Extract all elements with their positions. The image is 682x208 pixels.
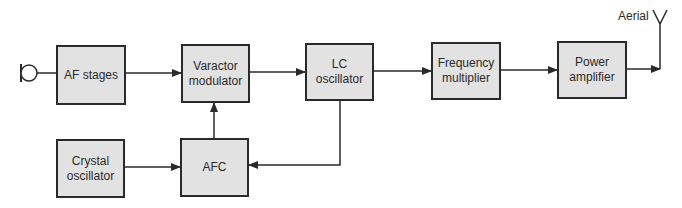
- fm-transmitter-block-diagram: Aerial AF stages Varactor modulator LC o…: [0, 0, 682, 208]
- block-varactor-modulator: Varactor modulator: [181, 44, 250, 103]
- block-lc-oscillator-label: LC oscillator: [316, 57, 363, 87]
- block-crystal-oscillator-label: Crystal oscillator: [67, 154, 114, 184]
- microphone-icon: [21, 64, 56, 82]
- aerial-label: Aerial: [618, 9, 649, 23]
- block-af-stages-label: AF stages: [64, 68, 118, 83]
- block-afc-label: AFC: [203, 160, 227, 175]
- block-crystal-oscillator: Crystal oscillator: [56, 139, 125, 198]
- block-power-amplifier-label: Power amplifier: [569, 55, 614, 85]
- block-varactor-modulator-label: Varactor modulator: [189, 59, 242, 89]
- antenna-icon: [653, 10, 667, 69]
- arrow-lc-to-afc: [249, 100, 340, 165]
- block-af-stages: AF stages: [56, 45, 126, 105]
- block-lc-oscillator: LC oscillator: [305, 43, 374, 101]
- block-frequency-multiplier-label: Frequency multiplier: [438, 56, 495, 86]
- block-power-amplifier: Power amplifier: [557, 41, 627, 99]
- block-frequency-multiplier: Frequency multiplier: [431, 42, 501, 100]
- block-afc: AFC: [180, 138, 249, 197]
